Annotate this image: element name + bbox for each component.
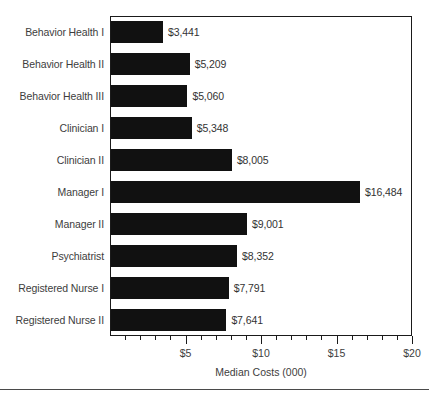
bar-row: Behavior Health I$3,441 bbox=[0, 16, 429, 48]
bar-track: $9,001 bbox=[111, 208, 429, 240]
bar bbox=[111, 245, 237, 267]
x-axis-major-tick bbox=[337, 336, 338, 344]
bar bbox=[111, 53, 190, 75]
bar-track: $7,791 bbox=[111, 272, 429, 304]
x-axis-tick-label: $15 bbox=[328, 347, 346, 359]
x-axis-tick-label: $10 bbox=[252, 347, 270, 359]
x-axis-minor-tick bbox=[201, 336, 202, 340]
bar-value-label: $8,352 bbox=[237, 240, 274, 272]
bar-value-label: $9,001 bbox=[247, 208, 284, 240]
bar-value-label: $5,060 bbox=[187, 80, 224, 112]
bar bbox=[111, 149, 232, 171]
x-axis-minor-tick bbox=[246, 336, 247, 340]
x-axis-minor-tick bbox=[216, 336, 217, 340]
x-axis-minor-tick bbox=[140, 336, 141, 340]
category-label: Behavior Health III bbox=[0, 80, 104, 112]
category-label: Manager I bbox=[0, 176, 104, 208]
x-axis-minor-tick bbox=[352, 336, 353, 340]
bar bbox=[111, 277, 229, 299]
x-axis-major-tick bbox=[412, 336, 413, 344]
bar bbox=[111, 213, 247, 235]
x-axis-tick-label: $20 bbox=[403, 347, 421, 359]
bar-track: $16,484 bbox=[111, 176, 429, 208]
x-axis-minor-tick bbox=[231, 336, 232, 340]
x-axis-minor-tick bbox=[155, 336, 156, 340]
bar bbox=[111, 85, 187, 107]
bar bbox=[111, 21, 163, 43]
bar-value-label: $7,641 bbox=[226, 304, 263, 336]
category-label: Registered Nurse II bbox=[0, 304, 104, 336]
bar-value-label: $8,005 bbox=[232, 144, 269, 176]
x-axis-minor-tick bbox=[276, 336, 277, 340]
bar-row: Registered Nurse II$7,641 bbox=[0, 304, 429, 336]
x-axis-title: Median Costs (000) bbox=[110, 366, 412, 378]
x-axis-major-tick bbox=[261, 336, 262, 344]
bar-row: Clinician I$5,348 bbox=[0, 112, 429, 144]
bar-value-label: $7,791 bbox=[229, 272, 266, 304]
bar-row: Clinician II$8,005 bbox=[0, 144, 429, 176]
x-axis-tick-labels: $5$10$15$20 bbox=[0, 347, 429, 363]
x-axis-minor-tick bbox=[367, 336, 368, 340]
bar-value-label: $3,441 bbox=[163, 16, 200, 48]
bar-track: $8,005 bbox=[111, 144, 429, 176]
category-label: Clinician I bbox=[0, 112, 104, 144]
bar-track: $8,352 bbox=[111, 240, 429, 272]
x-axis-minor-tick bbox=[397, 336, 398, 340]
bar-track: $3,441 bbox=[111, 16, 429, 48]
x-axis-major-tick bbox=[186, 336, 187, 344]
x-axis-tick-label: $5 bbox=[180, 347, 192, 359]
bar-value-label: $16,484 bbox=[360, 176, 402, 208]
x-axis-minor-tick bbox=[170, 336, 171, 340]
category-label: Clinician II bbox=[0, 144, 104, 176]
bar-value-label: $5,209 bbox=[190, 48, 227, 80]
bar-row: Psychiatrist$8,352 bbox=[0, 240, 429, 272]
footer-divider bbox=[0, 389, 429, 390]
x-axis-minor-tick bbox=[125, 336, 126, 340]
category-label: Psychiatrist bbox=[0, 240, 104, 272]
bar-value-label: $5,348 bbox=[192, 112, 229, 144]
x-axis-minor-tick bbox=[291, 336, 292, 340]
x-axis-minor-tick bbox=[306, 336, 307, 340]
bar-row: Behavior Health III$5,060 bbox=[0, 80, 429, 112]
category-label: Behavior Health II bbox=[0, 48, 104, 80]
category-label: Registered Nurse I bbox=[0, 272, 104, 304]
x-axis-tick-marks bbox=[110, 336, 412, 345]
bar-row: Manager I$16,484 bbox=[0, 176, 429, 208]
bar bbox=[111, 117, 192, 139]
bar-track: $7,641 bbox=[111, 304, 429, 336]
bar-row: Behavior Health II$5,209 bbox=[0, 48, 429, 80]
bar-chart-figure: Behavior Health I$3,441Behavior Health I… bbox=[0, 0, 429, 397]
bar-track: $5,060 bbox=[111, 80, 429, 112]
category-label: Manager II bbox=[0, 208, 104, 240]
category-label: Behavior Health I bbox=[0, 16, 104, 48]
bar-track: $5,209 bbox=[111, 48, 429, 80]
x-axis-minor-tick bbox=[382, 336, 383, 340]
bar bbox=[111, 309, 226, 331]
bar bbox=[111, 181, 360, 203]
x-axis-minor-tick bbox=[321, 336, 322, 340]
bar-row: Manager II$9,001 bbox=[0, 208, 429, 240]
bar-track: $5,348 bbox=[111, 112, 429, 144]
bar-row: Registered Nurse I$7,791 bbox=[0, 272, 429, 304]
